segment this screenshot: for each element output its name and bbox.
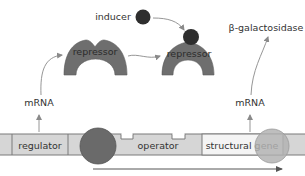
inducer-label: inducer bbox=[95, 11, 131, 22]
operator-notch-left bbox=[121, 134, 133, 139]
bound-inducer-molecule bbox=[183, 29, 199, 45]
mrna-label-right: mRNA bbox=[235, 97, 265, 108]
mrna-label-left: mRNA bbox=[24, 97, 54, 108]
beta-galactosidase-label: β-galactosidase bbox=[229, 22, 304, 33]
operator-notch-right bbox=[172, 134, 185, 139]
repressor-label-bound: repressor bbox=[167, 48, 212, 59]
structural-gene-polymerase-circle bbox=[255, 129, 289, 163]
rna-polymerase-circle bbox=[80, 128, 116, 164]
mrna-to-product-arrow bbox=[251, 37, 268, 95]
repressor-free: repressor bbox=[64, 40, 127, 75]
inducer-molecule bbox=[136, 10, 151, 25]
inducer-binding-arrow bbox=[153, 18, 184, 30]
segment-label-regulator: regulator bbox=[18, 140, 62, 151]
lac-operon-diagram: regulator operator structural gene mRNA … bbox=[0, 0, 305, 176]
repressor-bound: repressor bbox=[162, 29, 214, 75]
repressor-label-free: repressor bbox=[73, 46, 118, 57]
mrna-to-repressor-arrow bbox=[41, 55, 62, 95]
segment-label-operator: operator bbox=[138, 140, 179, 151]
repressor-binding-arrow bbox=[128, 55, 160, 57]
